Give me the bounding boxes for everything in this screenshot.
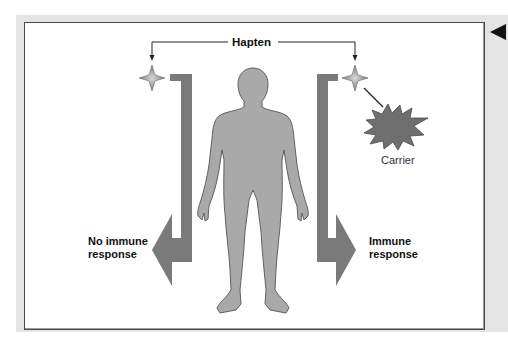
immune-response-line1: Immune [369, 235, 418, 248]
right-flow-arrow [317, 74, 356, 286]
arrowhead-icon [150, 55, 358, 61]
hapten-label: Hapten [232, 36, 271, 49]
hapten-carrier-diagram [0, 0, 508, 347]
hapten-carrier-link [364, 88, 383, 107]
carrier-starburst-icon [364, 104, 428, 150]
immune-response-line2: response [369, 248, 418, 261]
immune-response-label: Immune response [369, 235, 418, 261]
no-immune-response-line2: response [88, 248, 148, 261]
left-flow-arrow [152, 74, 192, 286]
no-immune-response-label: No immune response [88, 235, 148, 261]
hapten-star-left-icon [139, 65, 165, 91]
no-immune-response-line1: No immune [88, 235, 148, 248]
hapten-star-right-icon [342, 65, 368, 91]
carrier-label: Carrier [381, 154, 415, 167]
human-body-figure [198, 68, 309, 313]
